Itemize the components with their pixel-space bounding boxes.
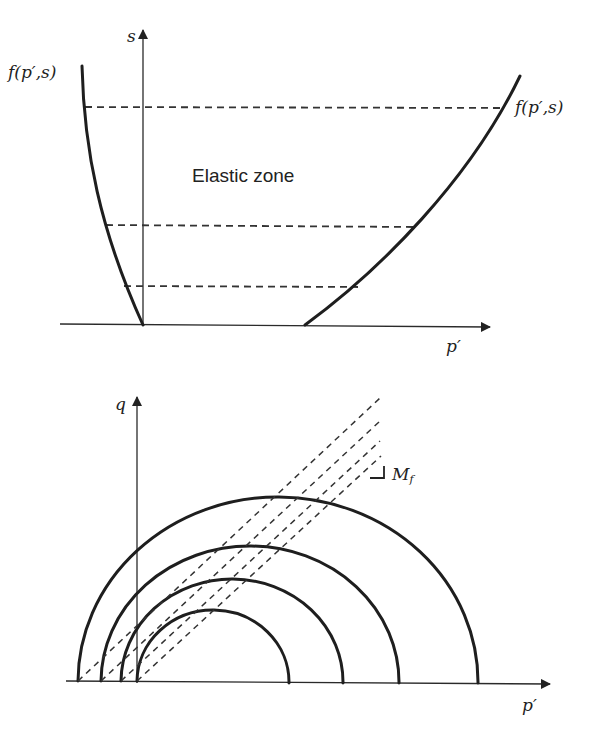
bottom-plot: q p′ Mf — [66, 394, 550, 715]
dashed-level-2 — [106, 225, 415, 227]
p-axis-top — [60, 324, 490, 327]
csl-line-3 — [121, 441, 380, 681]
yield-arc-3 — [121, 579, 343, 683]
top-plot: s p′ f(p′,s) f(p′,s) Elastic zone — [6, 26, 563, 356]
right-curve-label: f(p′,s) — [513, 97, 563, 117]
dashed-level-1 — [85, 107, 502, 108]
csl-line-1 — [78, 398, 380, 681]
slope-label: Mf — [391, 464, 415, 486]
dashed-level-3 — [124, 286, 358, 287]
yield-arc-1 — [78, 497, 478, 683]
left-curve-label: f(p′,s) — [6, 62, 56, 82]
p-axis-label-bottom: p′ — [522, 695, 537, 715]
figure-svg: s p′ f(p′,s) f(p′,s) Elastic zone q p′ — [0, 0, 605, 744]
s-axis-label: s — [127, 26, 136, 46]
right-yield-curve — [305, 76, 520, 325]
yield-arc-4 — [137, 610, 289, 683]
left-yield-curve — [82, 66, 143, 325]
slope-triangle-icon — [370, 466, 384, 478]
csl-line-4 — [137, 456, 381, 681]
yield-arc-2 — [101, 546, 399, 683]
q-axis-label: q — [115, 394, 126, 414]
elastic-zone-label: Elastic zone — [192, 165, 294, 186]
csl-line-2 — [101, 421, 380, 681]
figure-canvas: s p′ f(p′,s) f(p′,s) Elastic zone q p′ — [0, 0, 605, 744]
p-axis-label-top: p′ — [446, 336, 461, 356]
